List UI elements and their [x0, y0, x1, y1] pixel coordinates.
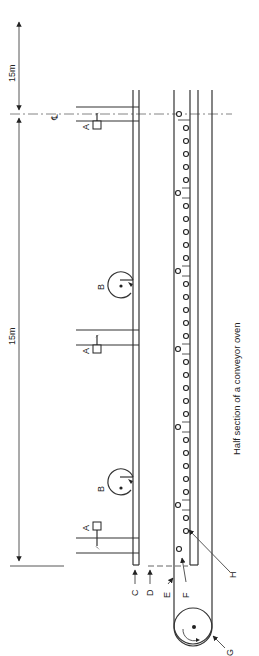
conveyor-oven-diagram: 15m 15m ℄ A A A: [0, 0, 259, 656]
svg-text:A: A: [81, 525, 91, 531]
svg-text:D: D: [145, 589, 155, 596]
unit-a-middle: A: [76, 330, 139, 354]
fan-b-bottom: B: [96, 469, 133, 495]
drive-drum: [174, 608, 212, 646]
svg-text:A: A: [81, 124, 91, 130]
dimension-lines: [10, 22, 64, 566]
centerline-symbol: ℄: [50, 114, 60, 121]
leader-labels: C D E F H G: [130, 530, 238, 656]
dimension-top-label: 15m: [7, 64, 17, 82]
unit-a-bottom: A: [76, 522, 139, 553]
svg-text:H: H: [228, 572, 238, 579]
dimension-main-label: 15m: [7, 327, 17, 345]
svg-text:B: B: [96, 284, 106, 290]
fan-b-top: B: [96, 272, 133, 298]
figure-caption: Half section of a conveyor oven: [231, 322, 242, 455]
svg-text:B: B: [96, 486, 106, 492]
support-rollers: [176, 112, 191, 534]
oven-walls: [133, 90, 212, 625]
svg-text:C: C: [130, 589, 140, 596]
svg-text:F: F: [181, 592, 191, 598]
svg-text:E: E: [162, 592, 172, 598]
svg-text:G: G: [225, 649, 235, 656]
svg-text:A: A: [81, 348, 91, 354]
unit-a-top: A: [76, 107, 139, 130]
